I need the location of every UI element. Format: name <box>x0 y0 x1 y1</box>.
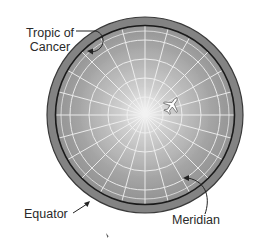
cursor-icon <box>106 233 110 238</box>
tropic-label-line2: Cancer <box>19 40 81 54</box>
equator-leader <box>73 204 87 213</box>
tropic-of-cancer-label: Tropic of Cancer <box>19 26 81 54</box>
meridian-label: Meridian <box>172 213 220 227</box>
tropic-label-line1: Tropic of <box>19 26 81 40</box>
equator-label: Equator <box>24 207 68 221</box>
